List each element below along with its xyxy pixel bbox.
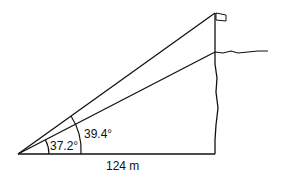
angle-arc-inner	[46, 140, 50, 154]
cliff-face	[215, 52, 218, 154]
base-distance-label: 124 m	[106, 159, 139, 173]
flag-icon	[216, 13, 226, 21]
sight-line-cliff-top	[18, 52, 215, 154]
cliff-top-edge	[215, 51, 268, 53]
inner-angle-label: 37.2°	[50, 139, 78, 153]
diagram-canvas: 37.2° 39.4° 124 m	[0, 0, 281, 179]
outer-angle-label: 39.4°	[84, 127, 112, 141]
sight-line-flag-top	[18, 13, 215, 154]
